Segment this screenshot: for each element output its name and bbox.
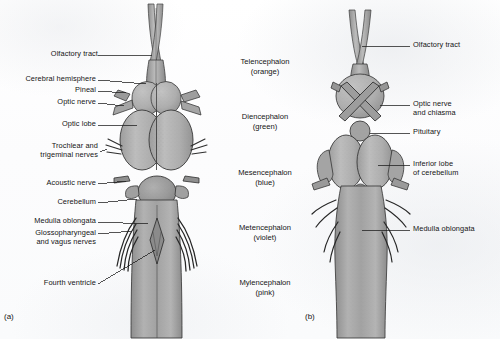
- region-label-color: (violet): [205, 233, 325, 243]
- label-line: Cerebellum: [0, 197, 96, 206]
- brain-ventral-view: [312, 10, 410, 338]
- label-line: Glossopharyngeal: [0, 228, 96, 237]
- region-label-diencephalon: Diencephalon (green): [205, 112, 325, 132]
- label-optic-nerve-and-chiasma: Optic nerve and chiasma: [413, 99, 500, 117]
- label-line: Trochlear and: [0, 141, 98, 150]
- label-glossopharyngeal-vagus-nerves: Glossopharyngeal and vagus nerves: [0, 228, 96, 246]
- label-line: Pineal: [0, 85, 96, 94]
- region-label-mesencephalon: Mesencephalon (blue): [205, 168, 325, 188]
- label-line: and chiasma: [413, 108, 500, 117]
- label-medulla-oblongata-b: Medulla oblongata: [413, 224, 500, 233]
- region-label-color: (orange): [205, 67, 325, 77]
- label-line: Inferior lobe: [413, 159, 500, 168]
- label-line: trigeminal nerves: [0, 150, 98, 159]
- region-label-mylencephalon: Mylencephalon (pink): [205, 278, 325, 298]
- region-label-metencephalon: Metencephalon (violet): [205, 223, 325, 243]
- region-label-name: Diencephalon: [205, 112, 325, 122]
- region-label-name: Mesencephalon: [205, 168, 325, 178]
- label-line: Optic nerve: [413, 99, 500, 108]
- panel-letter-a: (a): [4, 312, 14, 321]
- region-label-name: Telencephalon: [205, 57, 325, 67]
- label-cerebellum: Cerebellum: [0, 197, 96, 206]
- label-cerebral-hemisphere: Cerebral hemisphere: [0, 74, 96, 83]
- label-line: Medulla oblongata: [0, 216, 96, 225]
- region-label-color: (green): [205, 122, 325, 132]
- brain-anatomy-figure: Olfactory tract Cerebral hemisphere Pine…: [0, 0, 500, 339]
- label-pineal: Pineal: [0, 85, 96, 94]
- label-acoustic-nerve: Acoustic nerve: [0, 178, 96, 187]
- label-line: Medulla oblongata: [413, 224, 500, 233]
- label-inferior-lobe-of-cerebellum: Inferior lobe of cerebellum: [413, 159, 500, 177]
- label-line: Fourth ventricle: [0, 278, 96, 287]
- region-label-name: Metencephalon: [205, 223, 325, 233]
- brain-dorsal-view: [106, 4, 207, 338]
- label-line: Olfactory tract: [0, 49, 98, 58]
- label-line: Pituitary: [413, 127, 500, 136]
- region-label-name: Mylencephalon: [205, 278, 325, 288]
- label-olfactory-tract-a: Olfactory tract: [0, 49, 98, 58]
- label-olfactory-tract-b: Olfactory tract: [413, 40, 500, 49]
- label-trochlear-trigeminal-nerves: Trochlear and trigeminal nerves: [0, 141, 98, 159]
- label-pituitary: Pituitary: [413, 127, 500, 136]
- label-line: Olfactory tract: [413, 40, 500, 49]
- region-label-telencephalon: Telencephalon (orange): [205, 57, 325, 77]
- region-label-color: (pink): [205, 288, 325, 298]
- label-fourth-ventricle: Fourth ventricle: [0, 278, 96, 287]
- label-optic-lobe: Optic lobe: [0, 119, 96, 128]
- label-line: Cerebral hemisphere: [0, 74, 96, 83]
- label-line: of cerebellum: [413, 168, 500, 177]
- label-line: Optic nerve: [0, 97, 96, 106]
- label-line: Optic lobe: [0, 119, 96, 128]
- label-optic-nerve-a: Optic nerve: [0, 97, 96, 106]
- label-medulla-oblongata-a: Medulla oblongata: [0, 216, 96, 225]
- label-line: Acoustic nerve: [0, 178, 96, 187]
- region-label-color: (blue): [205, 178, 325, 188]
- panel-letter-b: (b): [305, 312, 315, 321]
- label-line: and vagus nerves: [0, 237, 96, 246]
